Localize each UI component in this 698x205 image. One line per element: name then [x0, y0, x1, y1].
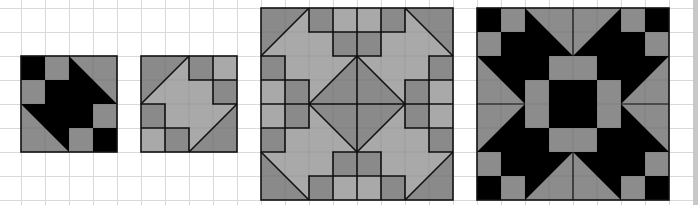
block-3 — [261, 8, 453, 200]
block-1 — [21, 56, 117, 152]
block-4 — [477, 8, 669, 200]
block-2 — [141, 56, 237, 152]
grid-paper-canvas — [0, 0, 698, 205]
scrollbar[interactable] — [693, 0, 698, 205]
